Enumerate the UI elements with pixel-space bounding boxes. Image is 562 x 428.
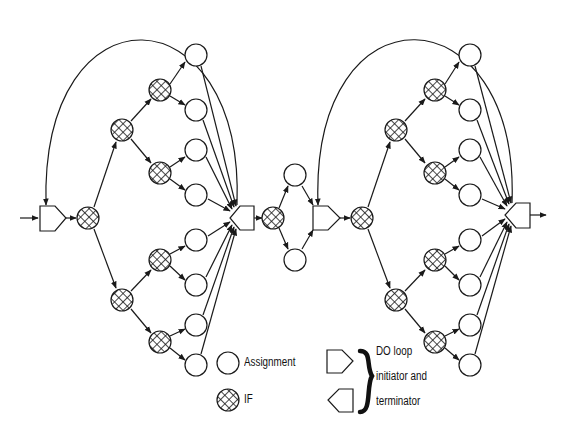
if-node [262,207,284,229]
assignment-node [459,99,481,121]
do-loop-initiator-2 [313,206,340,230]
if-node [149,331,171,353]
if-node [385,119,407,141]
assignment-node [459,229,481,251]
assignment-node [459,274,481,296]
legend-if-label: IF [244,392,253,406]
legend-do-loop-line1: DO loop [376,344,412,358]
assignment-node [284,164,306,186]
assignment-node [459,314,481,336]
legend-if-icon [217,389,239,411]
assignment-node [185,229,207,251]
do-loop-terminator-1 [230,206,254,230]
if-node [77,207,99,229]
assignment-node [459,139,481,161]
assignment-node [459,44,481,66]
assignment-node [185,274,207,296]
legend-assignment-icon [217,352,239,374]
legend-brace [360,351,372,412]
if-node [351,207,373,229]
assignment-node [185,139,207,161]
assignment-node [185,44,207,66]
assignment-node [185,184,207,206]
legend-assignment-label: Assignment [244,355,295,369]
assignment-node [284,249,306,271]
legend-initiator-icon [327,350,353,373]
legend-do-loop-line3: terminator [376,394,420,408]
if-node [149,249,171,271]
if-node [424,249,446,271]
legend-terminator-icon [328,389,353,412]
assignment-node [459,184,481,206]
if-node [424,79,446,101]
if-node [385,289,407,311]
if-node [111,289,133,311]
assignment-node [459,354,481,376]
legend-do-loop-line2: initiator and [376,369,427,383]
assignment-node [185,314,207,336]
assignment-node [185,99,207,121]
if-node [149,79,171,101]
if-node [424,331,446,353]
if-node [111,119,133,141]
if-node [424,162,446,184]
if-node [149,162,171,184]
do-loop-initiator-1 [40,206,66,231]
assignment-node [185,354,207,376]
